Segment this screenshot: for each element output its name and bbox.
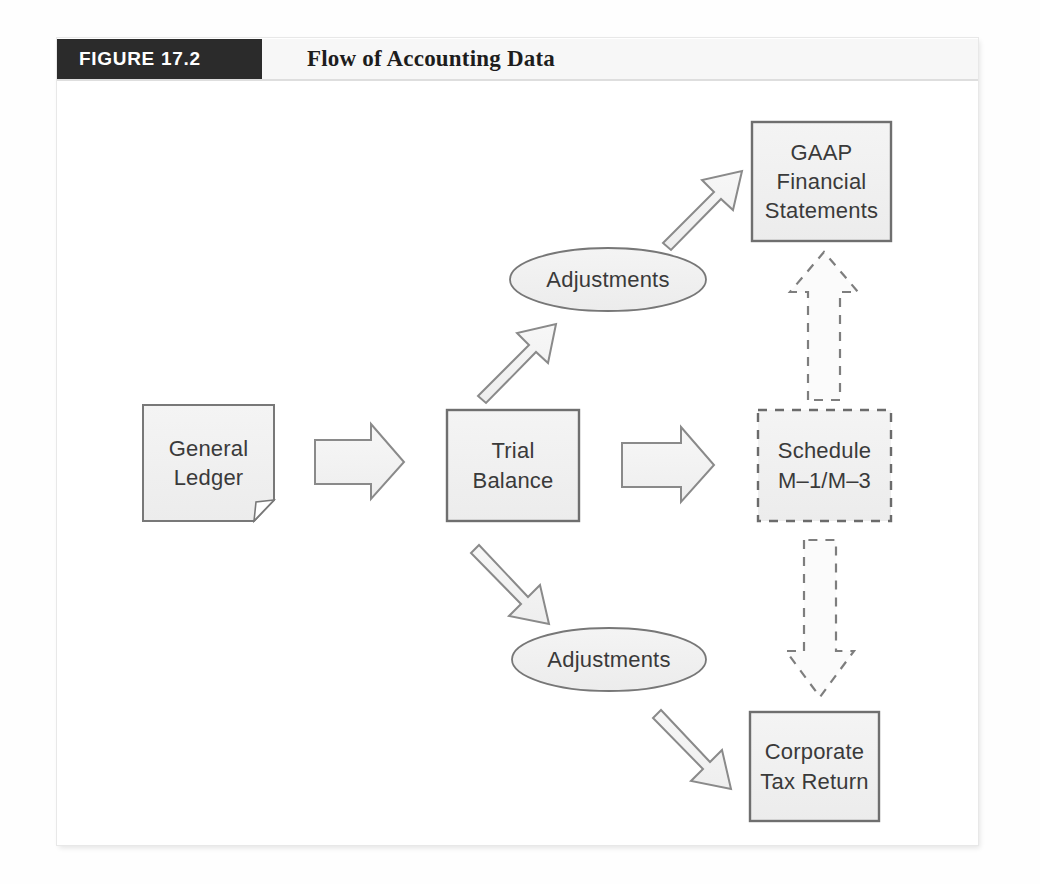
adjustments-top-line-1: Adjustments — [546, 265, 669, 294]
node-label-trial-balance: Trial Balance — [447, 410, 579, 521]
node-label-adjustments-bottom: Adjustments — [512, 628, 706, 691]
figure-header: FIGURE 17.2 Flow of Accounting Data — [57, 39, 978, 79]
trial-balance-line-1: Trial — [492, 436, 535, 465]
node-label-adjustments-top: Adjustments — [510, 248, 706, 311]
node-label-gaap-financial-statements: GAAP Financial Statements — [752, 122, 891, 241]
node-label-corporate-tax-return: Corporate Tax Return — [750, 712, 879, 821]
node-label-general-ledger: General Ledger — [143, 405, 274, 521]
schedule-line-1: Schedule — [778, 436, 871, 465]
header-divider — [57, 79, 978, 81]
corporate-tax-line-2: Tax Return — [760, 767, 868, 796]
schedule-line-2: M–1/M–3 — [778, 466, 871, 495]
general-ledger-line-2: Ledger — [174, 463, 244, 492]
figure-title: Flow of Accounting Data — [307, 39, 555, 79]
trial-balance-line-2: Balance — [473, 466, 554, 495]
gaap-line-1: GAAP — [791, 138, 853, 167]
node-label-schedule-m1-m3: Schedule M–1/M–3 — [758, 410, 891, 521]
gaap-line-2: Financial — [777, 167, 867, 196]
general-ledger-line-1: General — [169, 434, 249, 463]
adjustments-bottom-line-1: Adjustments — [547, 645, 670, 674]
figure-number-tab: FIGURE 17.2 — [57, 39, 262, 79]
corporate-tax-line-1: Corporate — [765, 737, 865, 766]
figure-root: FIGURE 17.2 Flow of Accounting Data — [0, 0, 1040, 884]
gaap-line-3: Statements — [765, 196, 878, 225]
